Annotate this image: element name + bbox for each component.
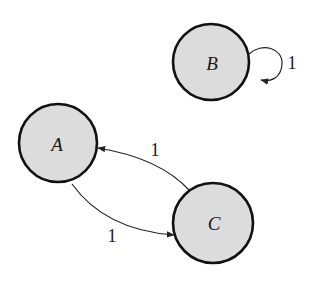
edge-c-to-a bbox=[98, 148, 190, 191]
node-b: B bbox=[173, 24, 249, 100]
graph-canvas: 1 1 1 A B C bbox=[0, 0, 317, 287]
edge-a-to-c-weight: 1 bbox=[108, 226, 117, 246]
node-b-label: B bbox=[206, 53, 218, 74]
node-c-label: C bbox=[208, 213, 221, 234]
edge-b-self-loop bbox=[249, 48, 282, 81]
node-a: A bbox=[19, 104, 97, 182]
node-a-label: A bbox=[49, 134, 63, 155]
edge-b-self-loop-weight: 1 bbox=[288, 53, 297, 73]
node-c: C bbox=[173, 183, 253, 263]
edge-a-to-c bbox=[72, 184, 174, 235]
edge-c-to-a-weight: 1 bbox=[151, 140, 160, 160]
